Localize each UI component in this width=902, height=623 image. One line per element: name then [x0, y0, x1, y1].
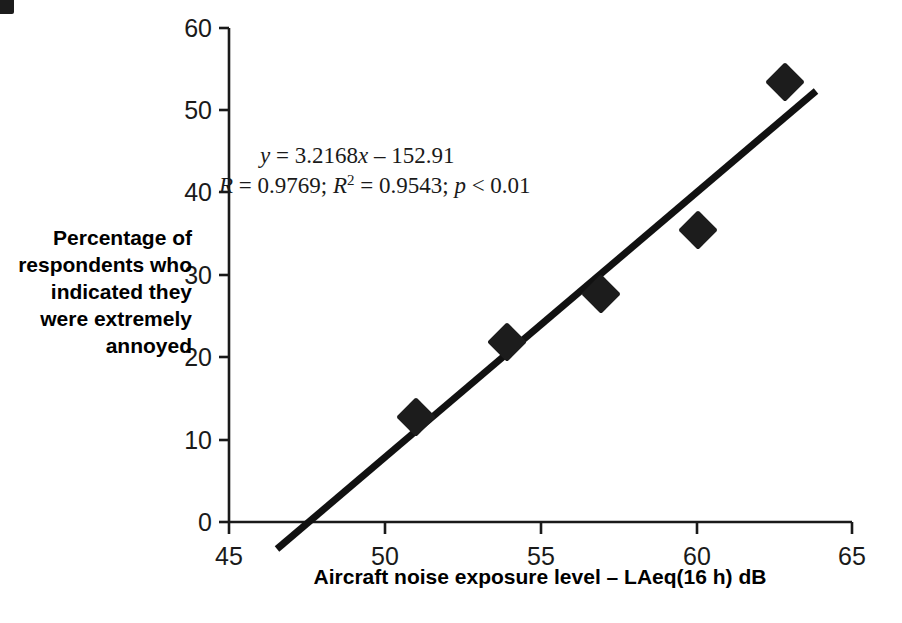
x-tick-label-45: 45 — [215, 542, 243, 570]
stats-p-symbol: p — [452, 173, 466, 198]
y-axis-title-line-4: were extremely — [39, 307, 192, 330]
chart-page: 60 50 40 30 20 10 0 45 50 55 60 65 Perce… — [0, 0, 902, 623]
data-point-marker — [678, 210, 718, 250]
x-tick-label-65: 65 — [838, 542, 866, 570]
regression-annotation: y = 3.2168x – 152.91 R = 0.9769; R2 = 0.… — [218, 143, 531, 198]
data-point-marker — [487, 322, 527, 362]
y-tick-label-60: 60 — [184, 14, 212, 42]
stats-r-value: = 0.9769; — [233, 173, 333, 198]
y-tick-label-10: 10 — [184, 426, 212, 454]
stats-r2-value: = 0.9543; — [355, 173, 455, 198]
caption-fragment — [0, 601, 902, 623]
y-tick-label-0: 0 — [198, 508, 212, 536]
stats-r2-superscript: 2 — [347, 172, 355, 188]
y-tick-label-50: 50 — [184, 96, 212, 124]
equation-y-symbol: y — [258, 143, 271, 168]
stats-p-value: < 0.01 — [466, 173, 531, 198]
y-axis-title-line-3: indicated they — [51, 280, 193, 303]
x-axis-ticks — [229, 522, 852, 534]
data-point-marker — [0, 0, 14, 14]
equation-tail: – 152.91 — [368, 143, 454, 168]
equation-rest: = 3.2168 — [270, 143, 358, 168]
data-point-marker — [396, 397, 436, 437]
y-axis-title: Percentage of respondents who indicated … — [18, 226, 193, 357]
data-point-marker — [765, 62, 805, 102]
y-axis-title-line-2: respondents who — [18, 253, 192, 276]
y-axis-ticks — [219, 28, 229, 522]
stats-r2-symbol: R — [332, 173, 347, 198]
y-tick-label-40: 40 — [184, 178, 212, 206]
regression-equation: y = 3.2168x – 152.91 — [258, 143, 454, 168]
data-points — [0, 0, 805, 437]
stats-r-symbol: R — [218, 173, 233, 198]
y-axis-title-line-1: Percentage of — [53, 226, 193, 249]
y-axis-title-line-5: annoyed — [106, 334, 192, 357]
scatter-chart: 60 50 40 30 20 10 0 45 50 55 60 65 Perce… — [0, 0, 902, 600]
x-axis-title: Aircraft noise exposure level – LAeq(16 … — [314, 565, 767, 588]
regression-stats: R = 0.9769; R2 = 0.9543; p < 0.01 — [218, 172, 531, 198]
data-point-marker — [581, 274, 621, 314]
equation-x-symbol: x — [357, 143, 369, 168]
